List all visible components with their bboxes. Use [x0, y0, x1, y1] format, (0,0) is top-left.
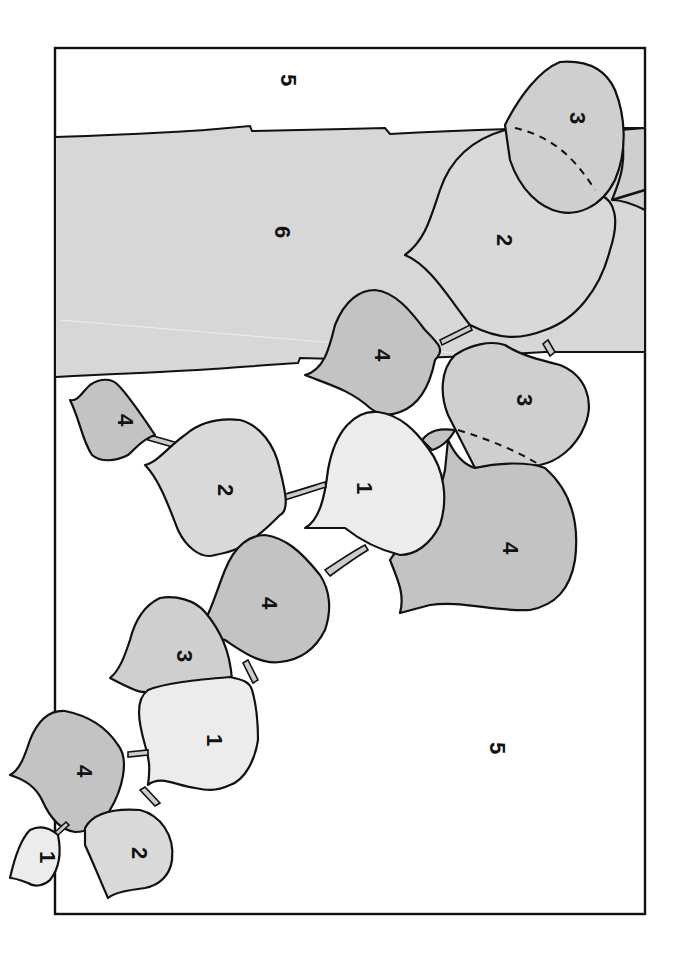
leaf-k-1[interactable] [139, 677, 258, 790]
label-leaf-m: 2 [127, 847, 152, 859]
label-leaf-g: 4 [113, 414, 138, 427]
label-leaf-n: 1 [35, 851, 60, 863]
label-leaf-j: 3 [172, 650, 197, 662]
label-leaf-a: 3 [565, 112, 590, 124]
coloring-canvas: 5 6 5 3 2 4 3 4 1 4 2 4 3 1 4 2 1 [0, 0, 690, 958]
label-band: 6 [270, 226, 295, 238]
label-bg-top: 5 [276, 74, 301, 86]
label-leaf-l: 4 [72, 765, 97, 778]
label-leaf-h: 2 [213, 484, 238, 496]
label-leaf-i: 4 [257, 597, 282, 610]
label-bg-bottom: 5 [485, 742, 510, 754]
label-leaf-f: 1 [352, 482, 377, 494]
label-leaf-b: 2 [492, 234, 517, 246]
label-leaf-c: 4 [370, 349, 395, 362]
label-leaf-e: 4 [498, 542, 523, 555]
label-leaf-k: 1 [202, 734, 227, 746]
label-leaf-d: 3 [512, 394, 537, 406]
